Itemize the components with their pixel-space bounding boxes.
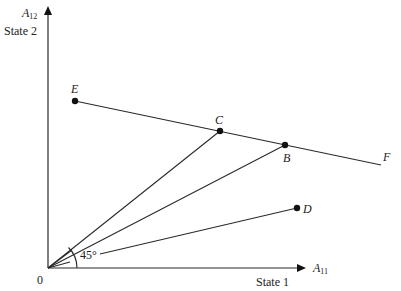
diagram-canvas: E C B D F 45° A12 State 2 A11 State 1 0 <box>0 0 401 291</box>
diagram-svg: E C B D F 45° A12 State 2 A11 State 1 0 <box>0 0 401 291</box>
point-b <box>282 142 288 148</box>
y-axis-label: A12 <box>21 6 37 21</box>
y-axis-caption: State 2 <box>4 24 37 38</box>
label-f: F <box>382 150 391 164</box>
ray-od-far <box>100 208 297 254</box>
label-c: C <box>215 113 224 127</box>
ray-45-tick <box>48 250 72 268</box>
label-b: B <box>283 151 291 165</box>
label-d: D <box>302 202 312 216</box>
angle-label: 45° <box>80 248 97 262</box>
x-axis-arrow-icon <box>297 264 306 272</box>
x-axis-caption: State 1 <box>256 275 289 289</box>
point-c <box>217 128 223 134</box>
y-axis-arrow-icon <box>44 6 52 15</box>
label-e: E <box>70 82 79 96</box>
x-axis-label: A11 <box>312 261 328 276</box>
ray-oc <box>48 131 220 268</box>
point-d <box>294 205 300 211</box>
point-e <box>72 98 78 104</box>
line-ef <box>75 101 381 165</box>
origin-label: 0 <box>37 273 43 287</box>
